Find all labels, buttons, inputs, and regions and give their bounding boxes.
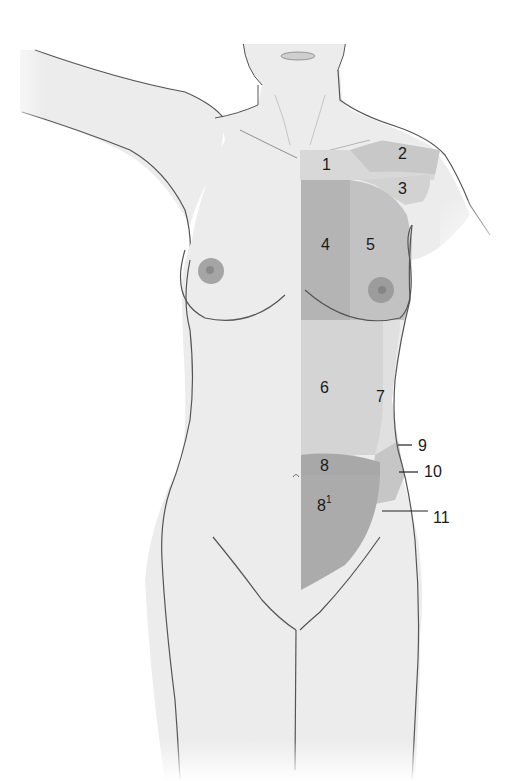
region-label-5: 5: [366, 237, 375, 253]
region-label-4: 4: [321, 237, 330, 253]
anatomical-torso-illustration: [0, 0, 505, 781]
raised-arm: [0, 40, 225, 260]
region-label-6: 6: [320, 380, 329, 396]
region-label-7: 7: [376, 389, 385, 405]
region-label-1: 1: [322, 157, 331, 173]
region-label-11: 11: [433, 510, 450, 526]
region-label-9: 9: [418, 438, 427, 454]
zone-6: [301, 320, 383, 455]
lips: [281, 52, 315, 60]
region-label-10: 10: [424, 464, 442, 480]
region-label-3: 3: [398, 181, 407, 197]
region-label-8: 8: [320, 458, 329, 474]
region-label-2: 2: [398, 146, 407, 162]
region-label-8-1: 81: [317, 497, 331, 514]
region-label-superscript: 1: [326, 494, 332, 505]
